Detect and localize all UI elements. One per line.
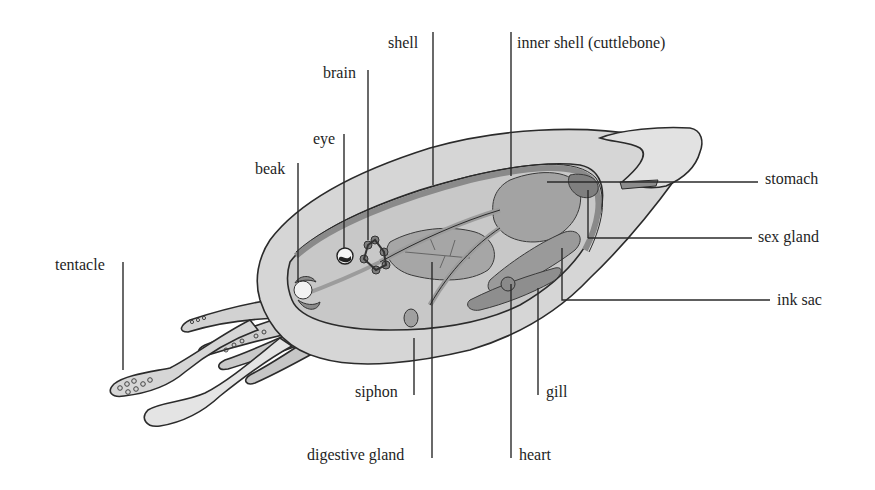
label-sex-gland: sex gland — [758, 228, 819, 246]
digestive-gland-organ — [387, 228, 495, 280]
label-eye: eye — [313, 130, 335, 148]
label-digestive-gland: digestive gland — [307, 446, 404, 464]
label-brain: brain — [323, 64, 356, 82]
label-beak: beak — [255, 160, 285, 178]
label-heart: heart — [519, 446, 551, 464]
label-inner-shell: inner shell (cuttlebone) — [517, 34, 665, 52]
label-siphon: siphon — [355, 383, 398, 401]
heart-organ — [501, 277, 515, 291]
label-gill: gill — [546, 383, 567, 401]
label-ink-sac: ink sac — [777, 291, 822, 309]
label-stomach: stomach — [765, 170, 818, 188]
cuttlefish-diagram — [0, 0, 875, 490]
siphon-organ — [404, 309, 418, 327]
label-tentacle: tentacle — [55, 256, 105, 274]
beak-organ — [294, 281, 312, 299]
label-shell: shell — [388, 34, 418, 52]
